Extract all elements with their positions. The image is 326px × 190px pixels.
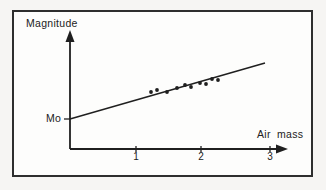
y-intercept-label: Mo <box>46 112 61 124</box>
data-point-5 <box>183 83 187 87</box>
data-point-1 <box>149 90 153 94</box>
x-tick-label-3: 3 <box>264 151 276 162</box>
x-tick-label-1: 1 <box>130 151 142 162</box>
x-tick-label-2: 2 <box>195 151 207 162</box>
data-point-9 <box>210 77 214 81</box>
data-point-6 <box>189 85 193 89</box>
y-axis-arrowhead <box>66 30 75 42</box>
x-axis-arrowhead <box>276 145 288 154</box>
data-point-3 <box>165 90 169 94</box>
x-axis-label: Air mass <box>257 128 303 140</box>
data-point-7 <box>198 81 202 85</box>
figure-page: Magnitude Mo Air mass 1 2 3 <box>0 0 326 190</box>
data-point-10 <box>216 78 220 82</box>
y-axis-label: Magnitude <box>26 17 78 29</box>
data-point-2 <box>155 88 159 92</box>
data-point-4 <box>175 86 179 90</box>
data-point-8 <box>204 82 208 86</box>
